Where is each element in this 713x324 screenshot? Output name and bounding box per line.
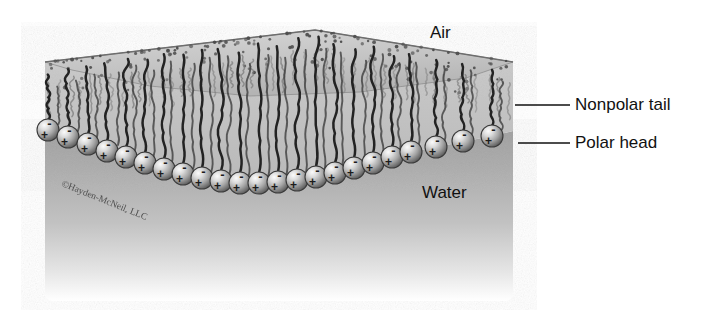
- svg-text:+: +: [366, 161, 373, 175]
- svg-text:+: +: [119, 155, 126, 169]
- svg-text:+: +: [290, 178, 297, 192]
- polar-head-label: Polar head: [575, 134, 657, 151]
- svg-text:+: +: [404, 150, 411, 164]
- svg-text:+: +: [347, 166, 354, 180]
- nonpolar-tail-label: Nonpolar tail: [575, 96, 670, 113]
- svg-text:+: +: [61, 135, 68, 149]
- svg-text:+: +: [195, 176, 202, 190]
- svg-text:+: +: [214, 179, 221, 193]
- svg-text:+: +: [138, 161, 145, 175]
- svg-text:+: +: [41, 128, 48, 142]
- svg-text:+: +: [252, 181, 259, 195]
- svg-text:+: +: [309, 175, 316, 189]
- surfactant-diagram-illustration: -+-+-+-+-+-+-+-+-+-+-+-+-+-+-+-+-+-+-+-+…: [0, 0, 713, 324]
- air-label: Air: [430, 24, 451, 41]
- svg-text:+: +: [81, 142, 88, 156]
- svg-text:+: +: [328, 171, 335, 185]
- svg-text:+: +: [485, 134, 492, 148]
- svg-text:+: +: [100, 149, 107, 163]
- svg-text:+: +: [385, 155, 392, 169]
- svg-text:+: +: [271, 180, 278, 194]
- svg-text:+: +: [429, 145, 436, 159]
- svg-text:+: +: [176, 172, 183, 186]
- svg-text:+: +: [233, 181, 240, 195]
- leader-lines: [515, 105, 570, 143]
- water-label: Water: [422, 184, 467, 201]
- svg-text:+: +: [157, 167, 164, 181]
- svg-text:+: +: [456, 139, 463, 153]
- figure-canvas: -+-+-+-+-+-+-+-+-+-+-+-+-+-+-+-+-+-+-+-+…: [0, 0, 713, 324]
